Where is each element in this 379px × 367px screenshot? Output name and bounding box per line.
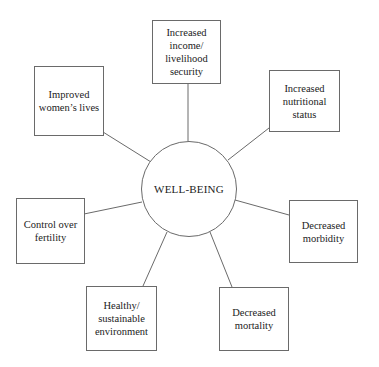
connector-fertility [84, 202, 142, 214]
node-nutrition: Increased nutritional status [269, 70, 340, 132]
node-fertility-label: Control over fertility [24, 218, 77, 244]
connector-environment [143, 232, 167, 286]
node-environment-label: Healthy/ sustainable environment [95, 299, 148, 338]
node-mortality: Decreased mortality [219, 287, 289, 351]
node-mortality-label: Decreased mortality [232, 306, 276, 332]
node-environment: Healthy/ sustainable environment [86, 286, 157, 351]
node-fertility: Control over fertility [16, 198, 85, 264]
node-morbidity-label: Decreased morbidity [302, 219, 346, 245]
node-income: Increased income/ livelihood security [152, 20, 221, 84]
node-income-label: Increased income/ livelihood security [165, 26, 208, 78]
connector-nutrition [228, 128, 269, 160]
connector-mortality [210, 232, 232, 287]
node-nutrition-label: Increased nutritional status [283, 82, 327, 121]
node-women-label: Improved women’s lives [39, 88, 99, 114]
connector-women [103, 132, 151, 162]
node-women: Improved women’s lives [34, 66, 104, 136]
node-morbidity: Decreased morbidity [289, 200, 358, 263]
hub-label: WELL-BEING [154, 183, 224, 195]
connector-morbidity [235, 200, 289, 215]
well-being-hub: WELL-BEING [141, 141, 237, 237]
